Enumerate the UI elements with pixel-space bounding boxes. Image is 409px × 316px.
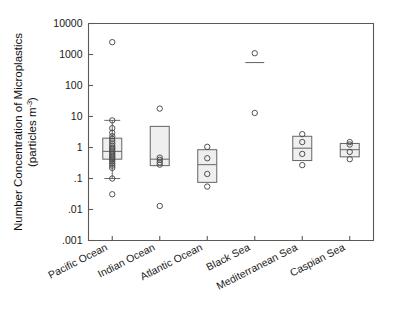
data-point xyxy=(205,144,210,149)
y-tick-label: 1 xyxy=(77,141,83,153)
boxplot-chart: 100001000100101.1.01.001 Number Concentr… xyxy=(0,0,409,316)
data-point xyxy=(157,203,162,208)
box-atlantic-ocean xyxy=(198,150,217,183)
data-point xyxy=(110,192,115,197)
y-tick-label: 10 xyxy=(71,110,83,122)
y-axis-title-line1: Number Concentration of Microplastics xyxy=(12,33,24,231)
y-tick-label: .1 xyxy=(74,172,83,184)
chart-canvas: 100001000100101.1.01.001 Number Concentr… xyxy=(0,0,409,316)
data-point xyxy=(252,51,257,56)
x-label-mediterranean-sea: Mediterranean Sea xyxy=(214,241,299,292)
data-point xyxy=(110,39,115,44)
y-tick-label: 10000 xyxy=(53,17,82,29)
plot-frame xyxy=(89,24,374,241)
y-tick-label: 100 xyxy=(65,79,83,91)
data-point xyxy=(252,110,257,115)
data-points xyxy=(110,39,353,208)
data-point xyxy=(205,184,210,189)
y-axis-ticks: 100001000100101.1.01.001 xyxy=(53,17,93,246)
data-point xyxy=(157,106,162,111)
y-tick-label: .01 xyxy=(68,203,83,215)
y-axis-title-line2: (particles m-3) xyxy=(25,97,38,167)
x-axis-ticks xyxy=(112,236,350,241)
y-tick-label: 1000 xyxy=(59,48,83,60)
data-point xyxy=(300,162,305,167)
y-axis-title: Number Concentration of Microplastics(pa… xyxy=(12,33,38,231)
x-axis-category-labels: Pacific OceanIndian OceanAtlantic OceanB… xyxy=(46,241,347,292)
box-series xyxy=(103,63,360,183)
y-tick-label: .001 xyxy=(62,234,83,246)
